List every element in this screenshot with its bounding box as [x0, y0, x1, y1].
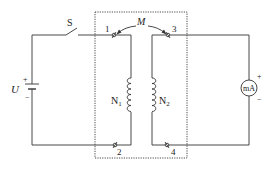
terminal-3-label: 3 — [172, 24, 177, 34]
coil-n2 — [152, 78, 156, 112]
coil-n1-label: N1 — [111, 95, 122, 108]
circuit-diagram: S U + − M 1 3 2 4 N1 N2 mA + − — [0, 0, 277, 171]
meter-plus: + — [257, 72, 262, 81]
source-minus: − — [25, 93, 30, 102]
terminal-4-label: 4 — [171, 147, 176, 157]
coil-n2-label: N2 — [159, 95, 170, 108]
source-plus: + — [23, 75, 28, 84]
mutual-inductance-arrows — [117, 26, 167, 35]
mutual-label: M — [136, 16, 146, 27]
coil-n1 — [127, 78, 131, 112]
switch-label: S — [67, 17, 73, 28]
terminal-1-label: 1 — [105, 24, 110, 34]
terminals — [112, 32, 170, 148]
primary-circuit — [25, 28, 131, 145]
secondary-circuit — [152, 35, 257, 145]
terminal-2-label: 2 — [117, 147, 122, 157]
source-label: U — [11, 83, 20, 95]
meter-minus: − — [257, 95, 262, 104]
switch-blade — [66, 28, 77, 35]
meter-label: mA — [243, 84, 255, 93]
